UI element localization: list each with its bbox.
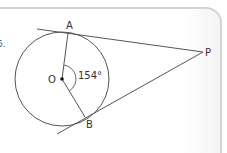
angle-label: 154°: [78, 70, 102, 81]
tangent-line-PA: [37, 29, 203, 52]
point-label-A: A: [66, 20, 73, 31]
angle-arc: [64, 65, 76, 91]
point-label-P: P: [205, 47, 211, 58]
point-label-O: O: [48, 74, 56, 85]
radius-OB: [62, 79, 85, 117]
radius-OA: [62, 33, 68, 79]
tangent-circle-diagram: A B P O 154°: [0, 0, 227, 153]
tangent-line-PB: [57, 52, 203, 134]
point-label-B: B: [86, 119, 93, 130]
centre-point: [60, 77, 64, 81]
